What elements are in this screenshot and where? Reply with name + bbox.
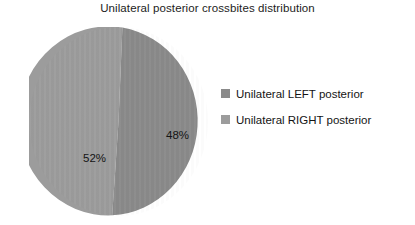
legend-swatch-icon [221,89,230,98]
pie-slice-value-left: 52% [83,152,106,164]
legend-swatch-icon [221,115,230,124]
chart-title: Unilateral posterior crossbites distribu… [0,2,415,14]
chart-legend: Unilateral LEFT posterior Unilateral RIG… [221,85,413,137]
pie-slice-value-right: 48% [166,129,189,141]
legend-label: Unilateral LEFT posterior [236,88,364,100]
legend-label: Unilateral RIGHT posterior [236,114,371,126]
pie-graphic: 52% 48% [29,27,208,216]
legend-item-unilateral-right-posterior: Unilateral RIGHT posterior [221,111,413,128]
pie-svg [29,27,208,216]
pie-slice-unilateral-right-posterior [29,27,122,215]
legend-item-unilateral-left-posterior: Unilateral LEFT posterior [221,85,413,102]
pie-chart: Unilateral posterior crossbites distribu… [0,0,415,225]
pie-slice-unilateral-left-posterior [112,28,197,216]
